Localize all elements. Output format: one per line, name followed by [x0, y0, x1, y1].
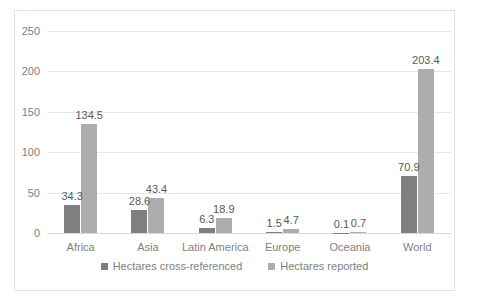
bar-europe-series-1[interactable]	[283, 229, 299, 233]
bar-group: 6.318.9Latin America	[182, 31, 249, 233]
gridline-0: 0	[47, 233, 451, 234]
bar-europe-series-0[interactable]	[266, 232, 282, 233]
bar-latin-america-series-0[interactable]	[199, 228, 215, 233]
bar-value-label: 203.4	[412, 55, 440, 66]
bar-group: 1.54.7Europe	[249, 31, 316, 233]
bar-value-label: 28.6	[129, 196, 150, 207]
x-axis-label-oceania: Oceania	[329, 242, 370, 253]
bar-pair	[249, 31, 316, 233]
bar-pair	[47, 31, 114, 233]
bar-value-label: 70.9	[398, 162, 419, 173]
legend-swatch-icon	[101, 263, 108, 270]
bar-africa-series-1[interactable]	[81, 124, 97, 233]
bar-africa-series-0[interactable]	[64, 205, 80, 233]
bar-latin-america-series-1[interactable]	[216, 218, 232, 233]
bar-group: 28.643.4Asia	[114, 31, 181, 233]
y-axis-tick-200: 200	[22, 66, 40, 77]
x-axis-label-europe: Europe	[265, 242, 300, 253]
y-axis-tick-50: 50	[28, 187, 40, 198]
x-axis-label-latin-america: Latin America	[182, 242, 249, 253]
legend-item-0[interactable]: Hectares cross-referenced	[101, 261, 243, 272]
bar-value-label: 43.4	[146, 184, 167, 195]
y-axis-tick-150: 150	[22, 106, 40, 117]
bar-value-label: 34.3	[61, 191, 82, 202]
bar-group: 34.3134.5Africa	[47, 31, 114, 233]
chart-legend: Hectares cross-referencedHectares report…	[15, 261, 454, 272]
bar-group: 0.10.7Oceania	[316, 31, 383, 233]
bar-oceania-series-1[interactable]	[350, 232, 366, 233]
bar-value-label: 0.1	[334, 219, 349, 230]
legend-item-1[interactable]: Hectares reported	[268, 261, 368, 272]
bar-value-label: 18.9	[213, 204, 234, 215]
bar-asia-series-0[interactable]	[131, 210, 147, 233]
x-axis-label-world: World	[403, 242, 432, 253]
bar-value-label: 134.5	[75, 110, 103, 121]
x-axis-label-africa: Africa	[67, 242, 95, 253]
bar-value-label: 0.7	[351, 218, 366, 229]
bar-value-label: 4.7	[284, 215, 299, 226]
bar-value-label: 6.3	[199, 214, 214, 225]
y-axis-tick-100: 100	[22, 147, 40, 158]
bar-world-series-1[interactable]	[418, 69, 434, 233]
legend-label: Hectares cross-referenced	[113, 261, 243, 272]
bar-pair	[316, 31, 383, 233]
bar-value-label: 1.5	[267, 218, 282, 229]
bar-world-series-0[interactable]	[401, 176, 417, 233]
plot-area: 250 200 150 100 50 0 34.3134.5Africa28.6…	[47, 31, 451, 233]
legend-swatch-icon	[268, 263, 275, 270]
bar-asia-series-1[interactable]	[148, 198, 164, 233]
y-axis-tick-0: 0	[34, 228, 40, 239]
legend-label: Hectares reported	[280, 261, 368, 272]
x-axis-label-asia: Asia	[137, 242, 158, 253]
chart-frame: 250 200 150 100 50 0 34.3134.5Africa28.6…	[14, 10, 455, 291]
bar-group: 70.9203.4World	[384, 31, 451, 233]
y-axis-tick-250: 250	[22, 26, 40, 37]
